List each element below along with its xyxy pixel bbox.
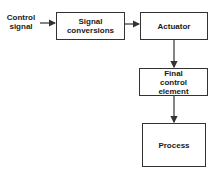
- node-process: Process: [142, 123, 206, 167]
- input-label-control-signal: Control signal: [4, 13, 38, 31]
- node-label: Process: [158, 141, 189, 150]
- node-label: Actuator: [158, 22, 191, 31]
- node-final-control-element: Final control element: [139, 68, 208, 96]
- node-label: Final control element: [154, 69, 193, 96]
- node-signal-conversions: Signal conversions: [56, 12, 125, 40]
- node-label: Signal conversions: [57, 17, 124, 35]
- node-actuator: Actuator: [140, 12, 208, 40]
